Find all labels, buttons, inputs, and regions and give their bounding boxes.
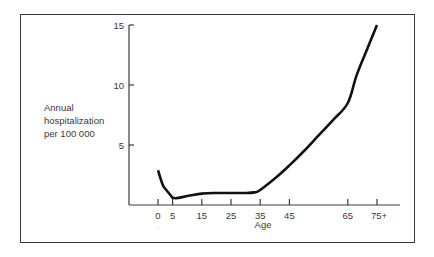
y-axis-title-line-2: hospitalization bbox=[44, 115, 104, 126]
series-line bbox=[158, 25, 377, 198]
x-tick-label: 65 bbox=[343, 210, 354, 221]
y-tick-label: 15 bbox=[113, 20, 124, 31]
line-chart: Annual hospitalization per 100 000 51015… bbox=[0, 0, 434, 257]
x-ticks: 05152535456575+ bbox=[155, 199, 387, 221]
x-axis-title: Age bbox=[255, 219, 272, 230]
series bbox=[158, 25, 377, 198]
x-tick-label: 75+ bbox=[371, 210, 388, 221]
x-tick-label: 5 bbox=[170, 210, 175, 221]
x-tick-label: 0 bbox=[155, 210, 160, 221]
x-tick-label: 25 bbox=[226, 210, 237, 221]
y-axis-title: Annual hospitalization per 100 000 bbox=[44, 102, 104, 139]
y-tick-label: 5 bbox=[119, 140, 124, 151]
x-tick-label: 45 bbox=[284, 210, 295, 221]
y-ticks: 51015 bbox=[113, 20, 134, 151]
x-tick-label: 15 bbox=[197, 210, 208, 221]
y-axis-title-line-1: Annual bbox=[44, 102, 74, 113]
y-tick-label: 10 bbox=[113, 80, 124, 91]
speck-mark bbox=[157, 226, 158, 227]
y-axis-title-line-3: per 100 000 bbox=[44, 128, 95, 139]
